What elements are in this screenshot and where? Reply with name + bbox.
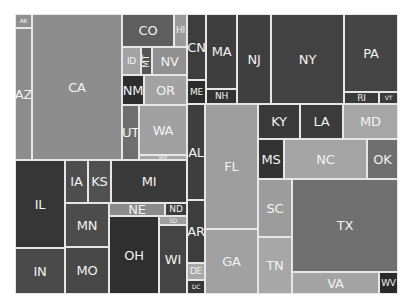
cell-label: PA (363, 47, 379, 60)
treemap-cell-vt[interactable]: VT (379, 92, 398, 104)
cell-label: NM (123, 84, 144, 97)
treemap-cell-or[interactable]: OR (144, 75, 187, 105)
treemap-cell-nh[interactable]: NH (206, 89, 237, 104)
treemap-cell-al[interactable]: AL (187, 104, 205, 200)
treemap-cell-mi[interactable]: MI (111, 160, 187, 203)
treemap-cell-wi[interactable]: WI (159, 225, 187, 294)
cell-label: AL (188, 146, 204, 159)
cell-label: NH (215, 92, 228, 101)
cell-label: CA (68, 81, 86, 94)
cell-label: NJ (247, 53, 260, 66)
cell-label: MD (360, 115, 381, 128)
cell-label: CN (187, 41, 205, 54)
treemap-cell-ne[interactable]: NE (109, 203, 165, 216)
state-treemap: AKAZCACOHIIDMTNVNMORUTWAWYILINIAKSMIMNMO… (0, 0, 409, 307)
treemap-cell-nj[interactable]: NJ (237, 14, 271, 104)
treemap-cell-dc[interactable]: DC (187, 280, 205, 294)
cell-label: WA (153, 124, 174, 137)
cell-label: TX (337, 219, 353, 232)
treemap-cell-ok[interactable]: OK (367, 139, 398, 179)
cell-label: IN (33, 265, 46, 278)
treemap-cell-oh[interactable]: OH (109, 216, 159, 294)
treemap-cell-nd[interactable]: ND (165, 203, 187, 216)
cell-label: CO (139, 24, 158, 37)
cell-label: LA (313, 115, 329, 128)
cell-label: MI (142, 175, 157, 188)
cell-label: DE (190, 267, 202, 276)
treemap-cell-nm[interactable]: NM (122, 75, 144, 105)
treemap-cell-sc[interactable]: SC (258, 179, 292, 237)
cell-label: TN (266, 259, 283, 272)
cell-label: ME (190, 88, 203, 97)
treemap-cell-ky[interactable]: KY (258, 104, 300, 139)
treemap-cell-ga[interactable]: GA (205, 229, 258, 294)
cell-label: KY (271, 115, 287, 128)
cell-label: MN (77, 219, 98, 232)
cell-label: GA (222, 255, 241, 268)
treemap-cell-id[interactable]: ID (122, 47, 141, 75)
treemap-cell-il[interactable]: IL (15, 160, 65, 248)
treemap-cell-wa[interactable]: WA (139, 105, 187, 155)
cell-label: RI (357, 94, 366, 103)
treemap-cell-co[interactable]: CO (122, 14, 174, 47)
treemap-cell-de[interactable]: DE (187, 263, 205, 280)
cell-label: MT (142, 55, 151, 68)
treemap-cell-ut[interactable]: UT (122, 105, 139, 160)
treemap-cell-mo[interactable]: MO (65, 247, 109, 294)
cell-label: OK (373, 153, 391, 166)
treemap-cell-ny[interactable]: NY (271, 14, 344, 104)
cell-label: UT (122, 126, 139, 139)
treemap-cell-md[interactable]: MD (343, 104, 398, 139)
treemap-cell-fl[interactable]: FL (205, 104, 258, 229)
cell-label: VT (385, 95, 392, 101)
cell-label: WI (165, 253, 181, 266)
cell-label: MO (76, 264, 97, 277)
treemap-cell-mt[interactable]: MT (141, 47, 152, 75)
treemap-cell-ks[interactable]: KS (88, 160, 111, 203)
cell-label: NV (160, 55, 178, 68)
treemap-cell-nc[interactable]: NC (284, 139, 367, 179)
cell-label: SC (267, 202, 284, 215)
treemap-cell-ms[interactable]: MS (258, 139, 284, 179)
cell-label: DC (192, 284, 200, 290)
treemap-cell-cn[interactable]: CN (187, 14, 206, 80)
cell-label: NC (316, 153, 334, 166)
treemap-cell-la[interactable]: LA (300, 104, 343, 139)
treemap-cell-nv[interactable]: NV (152, 47, 187, 75)
cell-label: WV (381, 279, 396, 288)
cell-label: FL (224, 160, 238, 173)
cell-label: SD (169, 218, 177, 224)
cell-label: IL (35, 198, 46, 211)
treemap-cell-wv[interactable]: WV (379, 272, 398, 294)
treemap-cell-tn[interactable]: TN (258, 237, 292, 294)
cell-label: NE (128, 203, 146, 216)
treemap-cell-hi[interactable]: HI (174, 14, 187, 47)
treemap-cell-ia[interactable]: IA (65, 160, 88, 203)
cell-label: OR (156, 84, 175, 97)
treemap-cell-ak[interactable]: AK (15, 14, 32, 28)
treemap-cell-sd[interactable]: SD (159, 216, 187, 225)
treemap-cell-in[interactable]: IN (15, 248, 65, 294)
treemap-cell-tx[interactable]: TX (292, 179, 398, 272)
treemap-cell-az[interactable]: AZ (15, 28, 32, 160)
cell-label: ID (127, 57, 136, 66)
cell-label: IA (70, 175, 82, 188)
treemap-cell-va[interactable]: VA (292, 272, 379, 294)
cell-label: ND (169, 205, 182, 214)
treemap-cell-ar[interactable]: AR (187, 200, 205, 263)
treemap-cell-me[interactable]: ME (187, 80, 206, 104)
treemap-cell-pa[interactable]: PA (344, 14, 398, 92)
cell-label: MA (212, 45, 232, 58)
cell-label: MS (261, 153, 280, 166)
cell-label: HI (176, 26, 185, 35)
cell-label: VA (327, 277, 344, 290)
cell-label: OH (124, 249, 144, 262)
treemap-cell-ca[interactable]: CA (32, 14, 122, 160)
treemap-cell-ma[interactable]: MA (206, 14, 237, 89)
treemap-cell-ri[interactable]: RI (344, 92, 379, 104)
cell-label: KS (91, 175, 107, 188)
treemap-cell-mn[interactable]: MN (65, 203, 109, 247)
cell-label: AR (187, 225, 205, 238)
cell-label: AZ (15, 88, 32, 101)
cell-label: NY (299, 53, 316, 66)
